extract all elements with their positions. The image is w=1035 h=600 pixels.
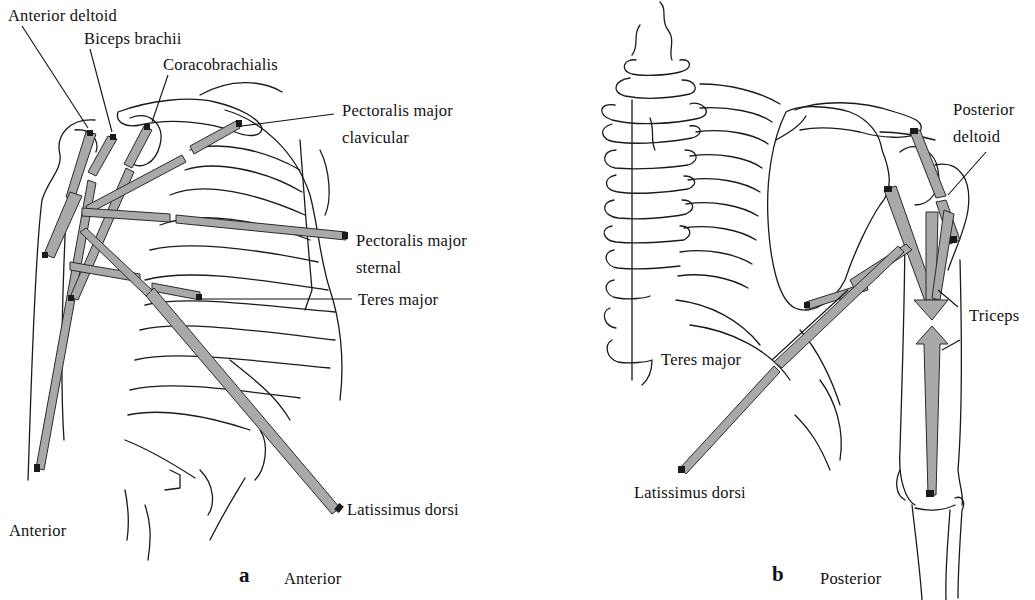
panel-a-caption: Anterior <box>284 569 342 588</box>
panel-b-letter: b <box>772 565 784 584</box>
label-posterior-deltoid-line2: deltoid <box>953 127 1000 146</box>
label-pectoralis-major-sternal-line1: Pectoralis major <box>356 231 467 250</box>
label-posterior-deltoid-line1: Posterior <box>953 100 1014 119</box>
label-biceps-brachii: Biceps brachii <box>84 29 182 48</box>
label-triceps: Triceps <box>969 306 1019 325</box>
anatomy-figure: Anterior deltoid Biceps brachii Coracobr… <box>0 0 1035 600</box>
label-teres-major-posterior: Teres major <box>661 350 741 369</box>
label-pectoralis-major-clavicular-line1: Pectoralis major <box>342 101 453 120</box>
panel-a-muscle-arrows <box>34 120 348 514</box>
label-anterior-deltoid: Anterior deltoid <box>8 6 117 25</box>
panel-b-caption: Posterior <box>820 569 881 588</box>
label-pectoralis-major-clavicular-line2: clavicular <box>342 128 409 147</box>
figure-drawing <box>0 0 1035 600</box>
label-latissimus-dorsi-posterior: Latissimus dorsi <box>634 483 746 502</box>
label-anterior-corner: Anterior <box>9 521 67 540</box>
panel-a-skeleton <box>28 83 342 560</box>
panel-b-skeleton <box>602 2 969 600</box>
label-teres-major-anterior: Teres major <box>358 290 438 309</box>
label-coracobrachialis: Coracobrachialis <box>163 55 278 74</box>
label-pectoralis-major-sternal-line2: sternal <box>356 258 401 277</box>
label-latissimus-dorsi-anterior: Latissimus dorsi <box>347 500 459 519</box>
panel-a-letter: a <box>239 566 250 585</box>
